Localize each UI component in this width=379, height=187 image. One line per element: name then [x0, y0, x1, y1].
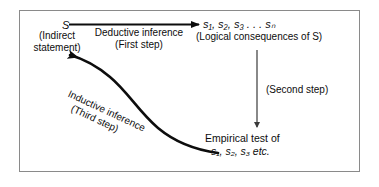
edge-label-deductive: Deductive inference (First step) — [78, 27, 200, 51]
node-empirical-line1: Empirical test of — [205, 132, 280, 144]
edge-label-second-step: (Second step) — [266, 84, 328, 96]
node-consequences-symbols: s₁, s₂, s₃ . . . sₙ — [203, 18, 275, 31]
edge-label-deductive-line2: (First step) — [78, 39, 200, 51]
node-consequences-caption: (Logical consequences of S) — [196, 31, 322, 43]
node-empirical-line2: s₁, s₂, s₃ etc. — [211, 145, 270, 157]
edge-label-deductive-line1: Deductive inference — [78, 27, 200, 39]
diagram-canvas: S (Indirect statement) Deductive inferen… — [0, 0, 379, 187]
